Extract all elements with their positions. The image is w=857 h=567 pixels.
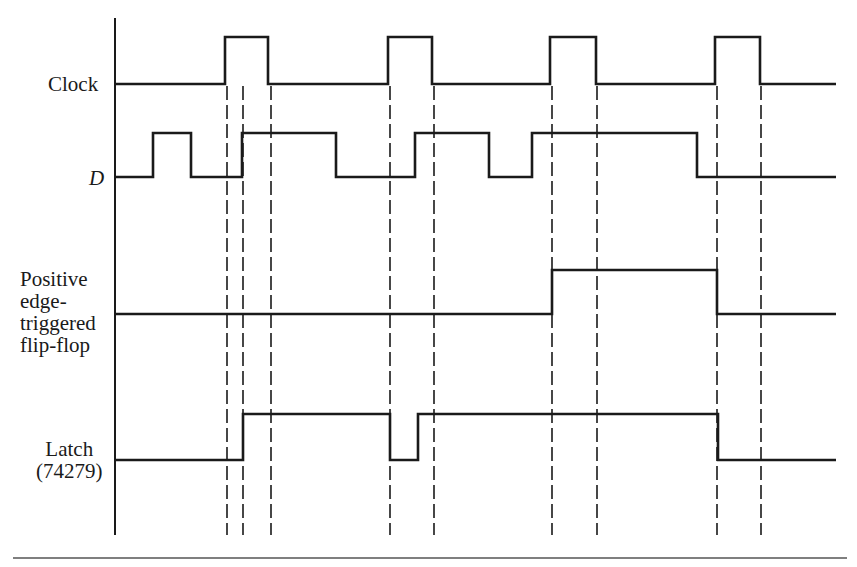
waveform-d xyxy=(115,133,836,177)
waveform-positive-edge-triggered-flip-flop xyxy=(115,270,836,314)
waveforms xyxy=(115,37,836,460)
timing-diagram xyxy=(0,0,857,567)
signal-label-d: D xyxy=(89,167,104,189)
signal-label-latch: Latch (74279) xyxy=(36,438,103,482)
signal-label-flip-flop: Positive edge- triggered flip-flop xyxy=(20,268,96,356)
waveform-latch-74279- xyxy=(115,414,836,460)
signal-label-clock: Clock xyxy=(48,73,98,95)
waveform-clock xyxy=(115,37,836,84)
clock-edge-dashed-lines xyxy=(227,86,761,535)
